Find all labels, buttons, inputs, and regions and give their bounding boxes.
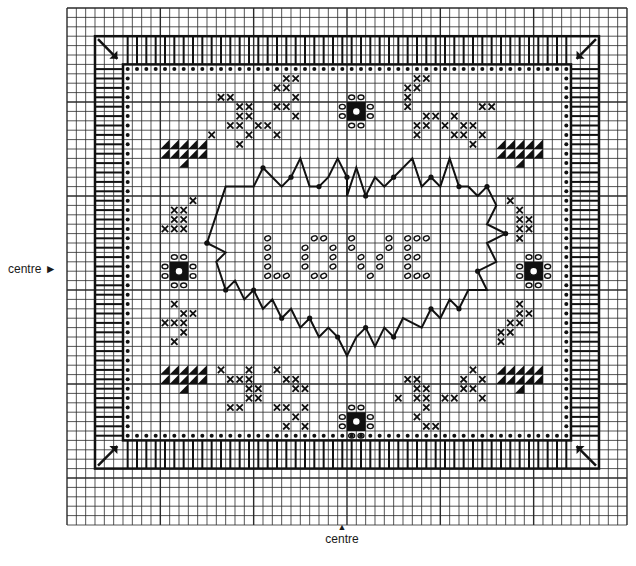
centre-arrow-icon: ▲ xyxy=(322,522,362,532)
centre-label: centre xyxy=(322,532,362,546)
centre-marker-left: centre ► xyxy=(8,262,57,276)
centre-marker-bottom: ▲ centre xyxy=(322,522,362,546)
cross-stitch-chart xyxy=(0,0,636,566)
